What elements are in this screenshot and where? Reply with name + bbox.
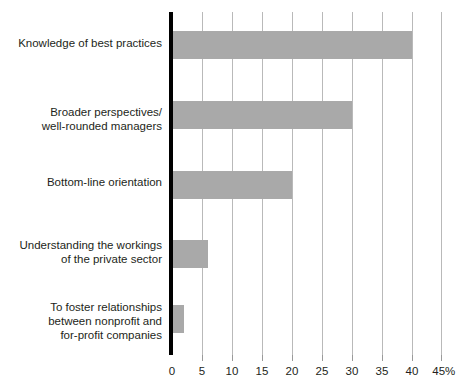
gridline-25	[322, 12, 323, 355]
category-label-4: To foster relationships between nonprofi…	[0, 300, 162, 342]
tick-label-0: 0	[169, 364, 175, 378]
bar-bottom-line-orientation	[172, 171, 292, 199]
gridline-30	[352, 12, 353, 355]
gridline-45	[441, 12, 442, 355]
category-label-1: Broader perspectives/ well-rounded manag…	[0, 105, 162, 133]
bar-knowledge-of-best-practices	[172, 31, 412, 59]
tick-mark-10	[232, 355, 233, 361]
gridline-40	[412, 12, 413, 355]
tick-mark-5	[202, 355, 203, 361]
bar-foster-relationships	[172, 305, 184, 333]
category-axis-labels: Knowledge of best practices Broader pers…	[0, 0, 166, 389]
tick-mark-40	[412, 355, 413, 361]
tick-mark-25	[322, 355, 323, 361]
tick-mark-45	[441, 355, 442, 361]
category-label-3: Understanding the workings of the privat…	[0, 238, 162, 266]
horizontal-bar-chart: Knowledge of best practices Broader pers…	[0, 0, 456, 389]
tick-label-40: 40	[406, 364, 419, 378]
tick-mark-20	[292, 355, 293, 361]
tick-label-35: 35	[376, 364, 389, 378]
value-axis-labels: 0 5 10 15 20 25 30 35 40 45%	[0, 355, 456, 385]
tick-label-25: 25	[316, 364, 329, 378]
bar-understanding-private-sector	[172, 240, 208, 268]
plot-area	[172, 12, 442, 355]
category-label-0: Knowledge of best practices	[0, 36, 162, 50]
tick-label-15: 15	[256, 364, 269, 378]
tick-label-10: 10	[226, 364, 239, 378]
tick-label-30: 30	[346, 364, 359, 378]
tick-mark-30	[352, 355, 353, 361]
gridline-20	[292, 12, 293, 355]
tick-label-5: 5	[199, 364, 205, 378]
category-label-2: Bottom-line orientation	[0, 175, 162, 189]
tick-mark-15	[262, 355, 263, 361]
tick-mark-35	[382, 355, 383, 361]
tick-label-20: 20	[286, 364, 299, 378]
tick-label-45: 45%	[432, 364, 455, 378]
gridline-35	[382, 12, 383, 355]
value-axis-line	[169, 12, 173, 355]
bar-broader-perspectives	[172, 101, 352, 129]
